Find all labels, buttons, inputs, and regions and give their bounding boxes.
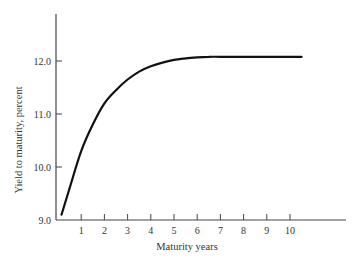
y-tick-label: 9.0 xyxy=(39,215,52,226)
x-axis-title: Maturity years xyxy=(156,241,218,252)
x-tick-label: 8 xyxy=(241,225,246,236)
y-ticks: 9.010.011.012.0 xyxy=(34,56,63,226)
y-tick-label: 10.0 xyxy=(34,162,52,173)
y-tick-label: 12.0 xyxy=(34,56,52,67)
x-tick-label: 3 xyxy=(125,225,130,236)
x-tick-label: 2 xyxy=(102,225,107,236)
axes xyxy=(56,14,346,220)
x-tick-label: 4 xyxy=(148,225,153,236)
x-tick-label: 7 xyxy=(218,225,223,236)
x-tick-label: 10 xyxy=(285,225,295,236)
y-tick-label: 11.0 xyxy=(34,109,51,120)
x-tick-label: 5 xyxy=(172,225,177,236)
yield-curve-chart: 9.010.011.012.0 12345678910 Maturity yea… xyxy=(0,0,354,269)
x-ticks: 12345678910 xyxy=(79,214,295,236)
x-tick-label: 6 xyxy=(195,225,200,236)
y-axis-title: Yield to maturity, percent xyxy=(13,86,24,193)
yield-curve-line xyxy=(62,57,302,215)
x-tick-label: 9 xyxy=(264,225,269,236)
x-tick-label: 1 xyxy=(79,225,84,236)
